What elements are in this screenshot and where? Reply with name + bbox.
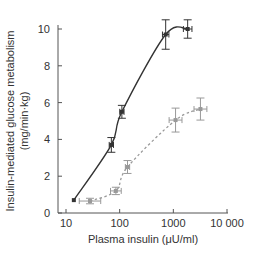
y-tick-label: 6	[44, 97, 50, 109]
insulin-resistant-point	[124, 161, 132, 174]
control-point	[72, 198, 76, 202]
marker	[126, 165, 130, 169]
data-points	[72, 20, 207, 204]
marker	[72, 198, 76, 202]
dose-response-chart: 024681010100100010 000 Plasma insulin (μ…	[0, 0, 255, 263]
marker	[88, 199, 92, 203]
marker	[114, 189, 118, 193]
axes: 024681010100100010 000	[38, 23, 244, 229]
x-tick-label: 10 000	[210, 217, 244, 229]
x-tick-label: 1000	[161, 217, 185, 229]
x-axis-title: Plasma insulin (μU/ml)	[88, 233, 198, 245]
x-tick-label: 10	[60, 217, 72, 229]
y-axis-title: Insulin-mediated glucose metabolism	[4, 31, 16, 212]
y-axis-units: (mg/min·kg)	[18, 92, 30, 151]
insulin-resistant-point	[111, 187, 122, 194]
control-curve	[74, 27, 188, 200]
y-tick-label: 0	[44, 207, 50, 219]
insulin-resistant-curve	[90, 109, 200, 201]
marker	[198, 107, 202, 111]
control-point	[183, 20, 192, 38]
y-tick-label: 2	[44, 170, 50, 182]
marker	[109, 143, 113, 147]
insulin-resistant-point	[194, 98, 207, 120]
marker	[120, 110, 124, 114]
marker	[164, 33, 168, 37]
marker	[174, 118, 178, 122]
insulin-resistant-point	[79, 198, 100, 204]
x-tick-label: 100	[110, 217, 128, 229]
marker	[186, 27, 190, 31]
control-point	[162, 20, 170, 49]
y-tick-label: 4	[44, 133, 50, 145]
fitted-curves	[74, 27, 201, 201]
y-tick-label: 8	[44, 60, 50, 72]
y-tick-label: 10	[38, 23, 50, 35]
insulin-resistant-point	[169, 108, 182, 132]
